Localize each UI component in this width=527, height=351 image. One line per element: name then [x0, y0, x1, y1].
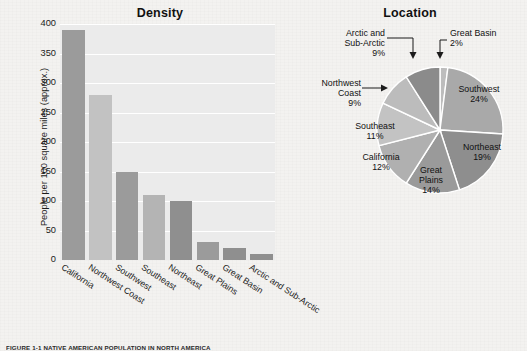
pie-callout-arctic-and-sub-arctic: Arctic and Sub-Arctic 9% — [319, 28, 385, 58]
y-axis-tick-label: 150 — [22, 166, 56, 176]
arrowhead-great-basin — [437, 52, 444, 59]
pie-label-great-plains-line1: Great — [407, 165, 455, 175]
arrowhead-arctic — [410, 52, 417, 59]
pie-label-great-plains-pct: 14% — [407, 185, 455, 195]
gridline — [60, 54, 275, 55]
pie-callout-arctic-line2: Sub-Arctic — [319, 38, 385, 48]
y-axis-tick-label: 100 — [22, 195, 56, 205]
pie-callout-arctic-pct: 9% — [319, 48, 385, 58]
pie-callout-great-basin: Great Basin 2% — [450, 28, 496, 48]
pie-label-northeast-pct: 19% — [447, 152, 517, 162]
bar-chart-x-axis-labels: CaliforniaNorthwest CoastSouthwestSouthe… — [60, 262, 290, 342]
bar-chart-plot-area — [60, 24, 275, 260]
pie-callout-northwest-coast-line2: Coast — [299, 88, 361, 98]
pie-callout-arctic-line1: Arctic and — [319, 28, 385, 38]
y-axis-tick-label: 50 — [22, 225, 56, 235]
pie-label-southwest: Southwest 24% — [443, 84, 515, 104]
pie-callout-northwest-coast: Northwest Coast 9% — [299, 78, 361, 108]
pie-callout-great-basin-pct: 2% — [450, 38, 496, 48]
bar-northwest-coast[interactable] — [89, 95, 112, 260]
pie-label-southeast-name: Southeast — [344, 121, 406, 131]
pie-label-california: California 12% — [350, 152, 412, 172]
pie-label-northeast: Northeast 19% — [447, 142, 517, 162]
bar-great-basin[interactable] — [223, 248, 246, 260]
bar-northeast[interactable] — [170, 201, 193, 260]
arrowhead-northwest-coast — [381, 85, 388, 92]
leader-line-great-basin — [440, 40, 447, 54]
leader-line-arctic — [387, 38, 413, 54]
bar-chart-title: Density — [105, 6, 215, 20]
bar-chart-y-axis: People per 100 square miles (approx.) 40… — [20, 24, 56, 260]
y-axis-tick-label: 250 — [22, 107, 56, 117]
density-bar-chart: Density People per 100 square miles (app… — [0, 0, 295, 345]
location-pie-chart: Location Great Basin: 2%Southwest: 24%No… — [295, 0, 527, 345]
pie-label-northeast-name: Northeast — [447, 142, 517, 152]
pie-label-southeast-pct: 11% — [344, 131, 406, 141]
gridline — [60, 83, 275, 84]
pie-label-california-pct: 12% — [350, 162, 412, 172]
y-axis-tick-label: 350 — [22, 48, 56, 58]
figure-caption: FIGURE 1-1 NATIVE AMERICAN POPULATION IN… — [6, 344, 521, 351]
y-axis-tick-label: 200 — [22, 136, 56, 146]
y-axis-tick-label: 0 — [22, 254, 56, 264]
pie-label-california-name: California — [350, 152, 412, 162]
y-axis-tick-label: 400 — [22, 18, 56, 28]
pie-label-southwest-name: Southwest — [443, 84, 515, 94]
gridline — [60, 24, 275, 25]
bar-arctic-and-sub-arctic[interactable] — [250, 254, 273, 260]
pie-label-southwest-pct: 24% — [443, 94, 515, 104]
bar-great-plains[interactable] — [197, 242, 220, 260]
pie-label-great-plains-line2: Plains — [407, 175, 455, 185]
bar-southwest[interactable] — [116, 172, 139, 261]
pie-callout-northwest-coast-line1: Northwest — [299, 78, 361, 88]
pie-callout-northwest-coast-pct: 9% — [299, 98, 361, 108]
pie-label-southeast: Southeast 11% — [344, 121, 406, 141]
bar-california[interactable] — [62, 30, 85, 260]
pie-label-great-plains: Great Plains 14% — [407, 165, 455, 195]
y-axis-tick-label: 300 — [22, 77, 56, 87]
bar-southeast[interactable] — [143, 195, 166, 260]
pie-callout-great-basin-name: Great Basin — [450, 28, 496, 38]
